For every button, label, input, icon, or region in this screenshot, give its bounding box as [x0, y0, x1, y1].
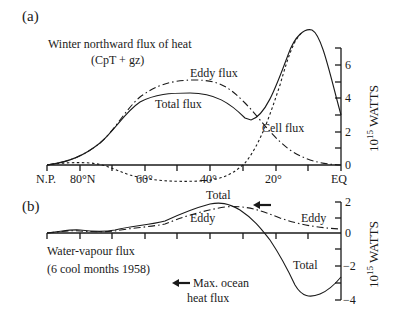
panel-b-subtitle: (6 cool months 1958): [47, 262, 150, 276]
panel-b-label: (b): [22, 198, 40, 215]
eddy-flux-label: Eddy flux: [190, 66, 238, 80]
panel-b-x-axis: [47, 233, 341, 239]
arrow-left-icon: [253, 201, 271, 209]
x-label-80n: 80°N: [70, 172, 96, 186]
total-label-bottom: Total: [293, 258, 318, 272]
panel-b-title: Water-vapour flux: [47, 244, 135, 258]
figure: (a) Winter northward flux of heat (CpT +…: [0, 0, 397, 316]
panel-b-y-unit: 1015 WATTS: [365, 221, 381, 288]
panel-a-y-axis: [335, 48, 341, 165]
panel-a-title: Winter northward flux of heat: [48, 37, 192, 51]
max-ocean-label-line2: heat flux: [187, 291, 229, 305]
x-label-20: 20°: [265, 172, 282, 186]
eddy-label-right: Eddy: [301, 211, 326, 225]
y-b-2: 2: [345, 195, 351, 209]
x-label-eq: EQ: [331, 172, 347, 186]
y-a-6: 6: [345, 58, 351, 72]
x-label-np: N.P.: [36, 172, 56, 186]
cell-flux-label: Cell flux: [262, 121, 304, 135]
panel-a-subtitle: (CpT + gz): [91, 53, 144, 67]
y-b-m2: −2: [343, 259, 356, 273]
y-b-m4: −4: [343, 293, 356, 307]
y-a-2: 2: [345, 125, 351, 139]
max-ocean-label-line1: Max. ocean: [193, 276, 249, 290]
panel-a-label: (a): [22, 8, 39, 25]
arrow-left-icon: [172, 279, 190, 287]
eddy-label-mid: Eddy: [190, 211, 215, 225]
total-label-top: Total: [206, 188, 231, 202]
y-b-0: 0: [345, 226, 351, 240]
panel-a-y-unit: 1015 WATTS: [365, 85, 381, 152]
panel-a-x-axis: [47, 165, 341, 171]
y-a-0: 0: [345, 158, 351, 172]
panel-b-y-axis: [335, 202, 341, 300]
y-a-4: 4: [345, 91, 351, 105]
total-flux-label: Total flux: [155, 97, 202, 111]
